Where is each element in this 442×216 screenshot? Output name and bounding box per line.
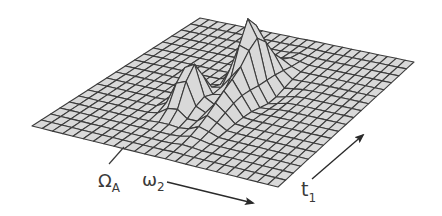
- t1-label: t1: [301, 178, 316, 205]
- omega-a-leader-line: [109, 147, 124, 164]
- omega-2-axis-arrow: [167, 182, 253, 203]
- omega-2-label: ω2: [142, 169, 165, 194]
- omega-a-label: ΩA: [98, 170, 121, 195]
- surface-plot-figure: ΩA ω2 t1: [0, 0, 442, 216]
- surface-mesh: [32, 18, 414, 187]
